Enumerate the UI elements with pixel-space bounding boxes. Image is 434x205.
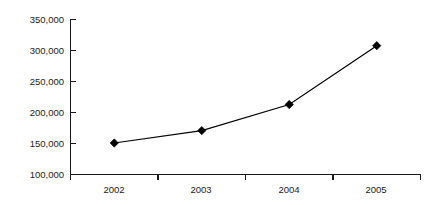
data-point-2005 — [373, 41, 381, 49]
y-tick-label-200000: 200,000 — [30, 107, 64, 118]
x-axis-tick-labels: 2002 2003 2004 2005 — [103, 184, 386, 195]
y-axis-tick-labels: 350,000 300,000 250,000 200,000 150,000 … — [30, 14, 64, 180]
y-tick-label-100000: 100,000 — [30, 169, 64, 180]
line-chart: 350,000 300,000 250,000 200,000 150,000 … — [0, 0, 434, 205]
series-markers — [110, 41, 381, 147]
data-series — [110, 41, 381, 147]
x-axis — [71, 175, 421, 181]
y-axis — [71, 19, 76, 175]
y-tick-label-150000: 150,000 — [30, 138, 64, 149]
x-tick-label-2002: 2002 — [103, 184, 124, 195]
y-tick-label-300000: 300,000 — [30, 45, 64, 56]
y-tick-label-350000: 350,000 — [30, 14, 64, 25]
x-tick-label-2005: 2005 — [365, 184, 386, 195]
x-tick-label-2004: 2004 — [278, 184, 299, 195]
series-line — [114, 46, 377, 143]
data-point-2004 — [285, 100, 293, 108]
x-tick-label-2003: 2003 — [190, 184, 211, 195]
chart-canvas: 350,000 300,000 250,000 200,000 150,000 … — [0, 0, 434, 205]
y-tick-label-250000: 250,000 — [30, 76, 64, 87]
data-point-2002 — [110, 139, 118, 147]
data-point-2003 — [198, 126, 206, 134]
